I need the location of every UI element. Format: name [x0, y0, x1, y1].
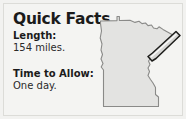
state-outline-shape [100, 17, 174, 107]
minnesota-state-map-icon [95, 6, 181, 118]
card-content: Quick Facts Length: 154 miles. Time to A… [4, 4, 182, 115]
card-border-frame: Quick Facts Length: 154 miles. Time to A… [3, 3, 183, 116]
quick-facts-card: Quick Facts Length: 154 miles. Time to A… [0, 0, 186, 119]
